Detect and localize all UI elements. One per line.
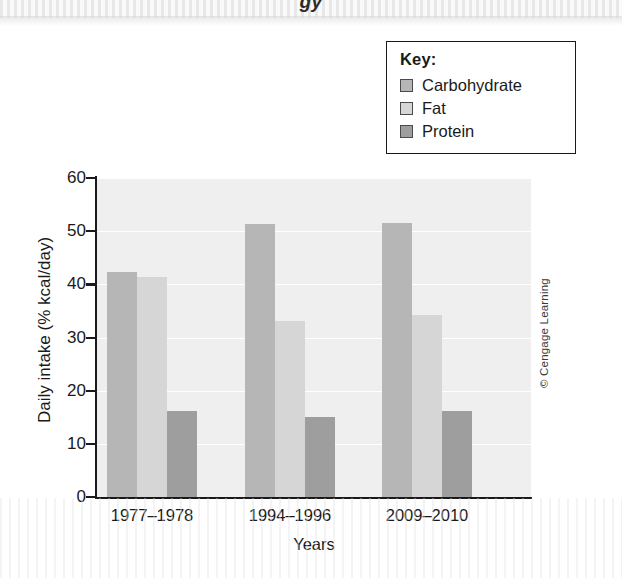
- x-axis-tick-label: 1977–1978: [82, 506, 222, 525]
- plot-area: [97, 178, 531, 497]
- y-axis-tick-label: 10: [67, 435, 86, 452]
- bar-protein-2: [442, 411, 472, 497]
- legend-swatch-fat: [400, 102, 413, 115]
- bar-protein-1: [305, 417, 335, 497]
- legend-item-fat: Fat: [400, 97, 575, 120]
- y-axis-tick-label: 30: [67, 329, 86, 346]
- bar-carbohydrate-2: [382, 223, 412, 497]
- y-axis-tick-label: 20: [67, 382, 86, 399]
- bar-protein-0: [167, 411, 197, 497]
- legend-item-carbohydrate: Carbohydrate: [400, 74, 575, 97]
- legend-swatch-protein: [400, 125, 413, 138]
- y-axis-tick-label: 50: [67, 222, 86, 239]
- gridline: [97, 178, 531, 179]
- y-axis-tick-label: 40: [67, 275, 86, 292]
- y-axis-tick-label: 60: [67, 169, 86, 186]
- bar-chart: Daily intake (% kcal/day) 6050403020100 …: [0, 160, 622, 578]
- bar-fat-0: [137, 277, 167, 497]
- legend-swatch-carbohydrate: [400, 79, 413, 92]
- bar-fat-1: [275, 321, 305, 497]
- x-axis-title: Years: [97, 535, 531, 554]
- bar-fat-2: [412, 315, 442, 497]
- legend-item-protein: Protein: [400, 120, 575, 143]
- x-axis-tick-label: 1994–1996: [220, 506, 360, 525]
- page-header-fragment: gy: [0, 0, 622, 13]
- scan-artifact-fade: [0, 16, 622, 26]
- y-axis-tick-label: 0: [77, 488, 86, 505]
- chart-legend: Key: Carbohydrate Fat Protein: [386, 41, 576, 154]
- x-axis-line: [95, 497, 532, 499]
- y-axis-tick-labels: 6050403020100: [20, 178, 86, 497]
- y-axis-line: [95, 176, 97, 499]
- bar-carbohydrate-1: [245, 224, 275, 497]
- legend-label-protein: Protein: [422, 123, 474, 140]
- legend-title: Key:: [400, 51, 575, 68]
- legend-label-carbohydrate: Carbohydrate: [422, 77, 522, 94]
- gridline: [97, 231, 531, 232]
- x-axis-tick-label: 2009–2010: [357, 506, 497, 525]
- copyright-credit: © Cengage Learning: [538, 278, 550, 388]
- bar-carbohydrate-0: [107, 272, 137, 497]
- legend-label-fat: Fat: [422, 100, 446, 117]
